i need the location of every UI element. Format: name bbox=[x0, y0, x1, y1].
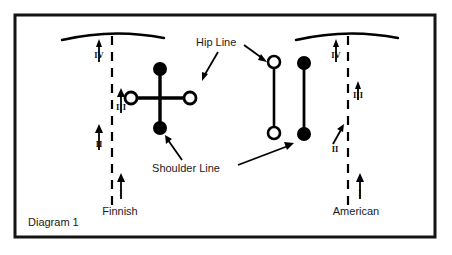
finnish-numeral-i: I bbox=[119, 188, 123, 198]
finnish-hip-marker-right bbox=[184, 92, 196, 104]
hip-line-pointer-left bbox=[202, 52, 218, 81]
throwing-technique-diagram: IV III II I bbox=[0, 0, 452, 255]
american-numeral-iii: III bbox=[353, 90, 364, 100]
diagram-border bbox=[15, 15, 435, 237]
shoulder-line-pointer-left bbox=[165, 135, 182, 160]
american-hip-marker-bottom bbox=[268, 127, 280, 139]
american-phase-marker-ii: II bbox=[332, 124, 344, 154]
american-shoulder-marker-bottom bbox=[297, 127, 311, 141]
american-caption: American bbox=[333, 205, 379, 217]
american-phase-marker-i: I bbox=[356, 173, 364, 199]
finnish-numeral-iv: IV bbox=[94, 50, 104, 60]
shoulder-line-label: Shoulder Line bbox=[152, 162, 220, 174]
american-shoulder-marker-top bbox=[297, 56, 311, 70]
diagram-caption: Diagram 1 bbox=[28, 216, 79, 228]
finnish-phase-marker-iv: IV bbox=[94, 39, 104, 62]
finnish-numeral-ii: II bbox=[96, 139, 103, 149]
shoulder-line-pointer-right bbox=[238, 142, 294, 165]
diagram-canvas: IV III II I bbox=[0, 0, 452, 255]
finnish-phase-marker-ii: II bbox=[95, 124, 103, 150]
finnish-phase-marker-i: I bbox=[117, 173, 125, 199]
american-numeral-i: I bbox=[358, 188, 362, 198]
american-phase-marker-iii: III bbox=[353, 81, 364, 100]
american-hip-marker-top bbox=[268, 56, 280, 68]
finnish-hip-marker-left bbox=[125, 92, 137, 104]
american-numeral-iv: IV bbox=[331, 50, 341, 60]
finnish-shoulder-marker-top bbox=[153, 62, 167, 76]
finnish-shoulder-marker-bottom bbox=[153, 121, 167, 135]
finnish-numeral-iii: III bbox=[116, 102, 127, 112]
american-phase-marker-iv: IV bbox=[331, 39, 341, 62]
hip-line-label: Hip Line bbox=[196, 36, 236, 48]
hip-line-pointer-right bbox=[244, 45, 267, 62]
finnish-caption: Finnish bbox=[102, 205, 137, 217]
american-numeral-ii: II bbox=[332, 144, 339, 154]
